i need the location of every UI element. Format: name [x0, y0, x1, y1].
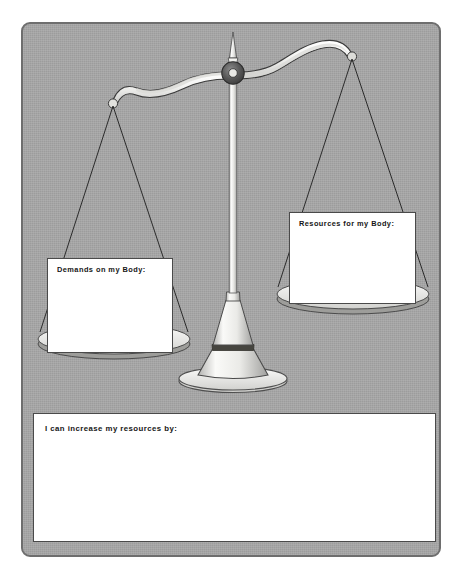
- demands-label: Demands on my Body:: [57, 265, 146, 274]
- demands-write-box[interactable]: Demands on my Body:: [47, 258, 173, 353]
- worksheet-page: Demands on my Body: Resources for my Bod…: [0, 0, 462, 579]
- increase-resources-write-box[interactable]: I can increase my resources by:: [33, 413, 436, 542]
- increase-resources-label: I can increase my resources by:: [45, 424, 177, 433]
- resources-label: Resources for my Body:: [299, 219, 394, 228]
- resources-write-box[interactable]: Resources for my Body:: [289, 212, 416, 304]
